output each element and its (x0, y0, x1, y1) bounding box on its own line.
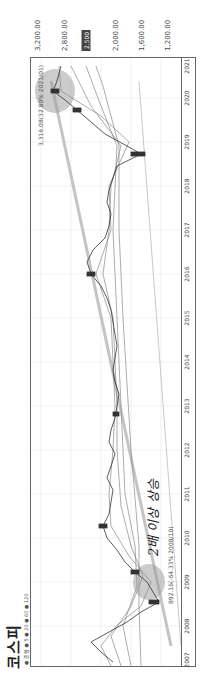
x-tick: 2011 (183, 486, 190, 501)
x-tick: 2014 (183, 354, 190, 369)
low-highlight-circle (133, 564, 165, 600)
candlestick-plot (31, 58, 181, 666)
y-tick-1200: 1,200.00 (164, 20, 172, 51)
x-tick: 2017 (183, 222, 190, 237)
y-tick-3200: 3,200.00 (34, 20, 42, 51)
plot-area: 892.16(-64.33% 2008/10) 3,316.08(32.80% … (30, 57, 182, 667)
x-tick: 2020 (183, 90, 190, 105)
x-tick: 2008 (183, 618, 190, 633)
chart-title: 코스피 (2, 624, 23, 669)
x-axis: 2007 2008 2009 2010 2011 2012 2013 2014 … (181, 57, 196, 667)
handwritten-annotation: 2배 이상 상승 (143, 479, 162, 556)
rotated-chart-stage: 코스피 ● 종합 ● 5 ● 20 ● 60 ● 120 (0, 0, 202, 675)
y-tick-2000: 2,000.00 (112, 20, 120, 51)
x-tick: 2010 (183, 530, 190, 545)
x-tick: 2012 (183, 442, 190, 457)
x-tick: 2018 (183, 178, 190, 193)
x-tick: 2016 (183, 266, 190, 281)
y-tick-1600: 1,600.00 (138, 20, 146, 51)
chart-legend: ● 종합 ● 5 ● 20 ● 60 ● 120 (22, 593, 29, 665)
y-tick-2800: 2,800.00 (61, 20, 69, 51)
x-tick: 2013 (183, 398, 190, 413)
low-point-label: 892.16(-64.33% 2008/10) (167, 526, 174, 604)
x-tick: 2019 (183, 134, 190, 149)
x-tick: 2015 (183, 310, 190, 325)
y-axis: 3,200.00 2,800.00 2,500 2,000.00 1,600.0… (30, 0, 180, 57)
x-tick: 2009 (183, 574, 190, 589)
current-price-box: 2,500 (82, 30, 91, 51)
high-point-label: 3,316.08(32.80% 2021/01) (37, 65, 44, 146)
x-tick: 2021 (183, 58, 190, 73)
x-tick: 2007 (183, 652, 190, 667)
